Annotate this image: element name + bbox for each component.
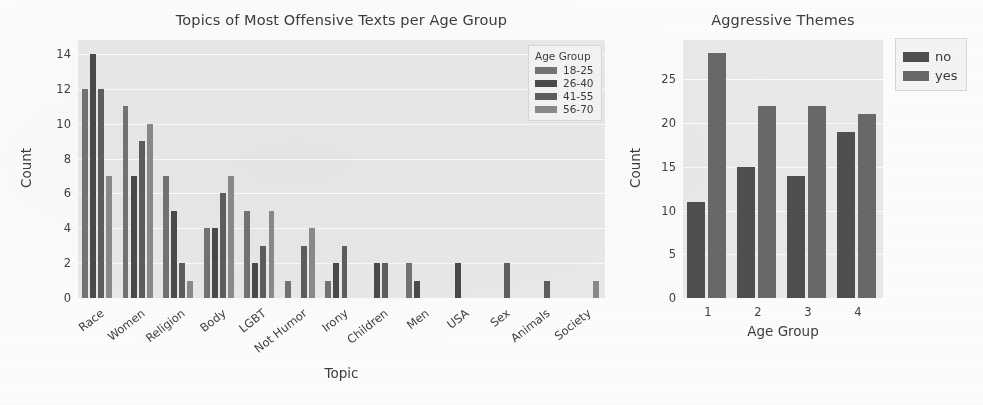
bar [837,132,855,298]
bar [163,176,169,298]
y-axis-tick-label: 2 [64,256,71,270]
chart-aggressive-themes: Aggressive Themes 05101520251234 Count A… [620,0,983,405]
legend-swatch-icon [903,52,929,62]
y-axis-tick-label: 14 [56,47,71,61]
y-axis-tick-label: 20 [661,116,676,130]
bar [787,176,805,298]
bar [406,263,412,298]
bar [123,106,129,298]
x-axis-tick-label: Body [197,306,228,335]
legend-swatch-icon [535,67,557,74]
bar [285,281,291,298]
bar [98,89,104,298]
bar [139,141,145,298]
plot-area-aggressive: 05101520251234 [683,40,883,298]
y-axis-tick-label: 10 [56,117,71,131]
y-axis-tick-label: 15 [661,160,676,174]
legend-swatch-icon [903,71,929,81]
bar [374,263,380,298]
bar [342,246,348,298]
bar [593,281,599,298]
plot-area-topics: 02468101214RaceWomenReligionBodyLGBTNot … [78,40,605,298]
bar [758,106,776,298]
bar [858,114,876,298]
bar [252,263,258,298]
bar [687,202,705,298]
x-axis-tick-label: Children [344,306,390,346]
bar [544,281,550,298]
bar [269,211,275,298]
bar [147,124,153,298]
bar [212,228,218,298]
bar [333,263,339,298]
legend-item: 18-25 [535,64,594,76]
bar [244,211,250,298]
bar [179,263,185,298]
y-axis-tick-label: 8 [64,152,71,166]
gridline [78,54,605,55]
x-axis-label-aggressive: Age Group [683,323,883,339]
x-axis-tick-label: USA [444,306,471,332]
gridline [78,193,605,194]
legend-item-label: 18-25 [563,64,594,76]
x-axis-tick-label: Men [403,306,431,332]
bar [171,211,177,298]
bar [737,167,755,298]
legend-swatch-icon [535,80,557,87]
bar [504,263,510,298]
x-axis-tick-label: 3 [804,305,811,319]
gridline [78,124,605,125]
legend-entries-aggressive: noyes [903,49,957,83]
bar [455,263,461,298]
legend-item: yes [903,68,957,83]
figure-page: Topics of Most Offensive Texts per Age G… [0,0,983,405]
y-axis-tick-label: 4 [64,221,71,235]
x-axis-tick-label: Irony [319,306,350,335]
x-axis-tick-label: 4 [854,305,861,319]
y-axis-tick-label: 6 [64,186,71,200]
bar [228,176,234,298]
bar [301,246,307,298]
legend-item-label: yes [935,68,957,83]
bar [260,246,266,298]
legend-item-label: 41-55 [563,90,594,102]
legend-item: 56-70 [535,103,594,115]
y-axis-tick-label: 10 [661,204,676,218]
y-axis-label-aggressive: Count [627,138,643,198]
x-axis-tick-label: Society [551,306,593,343]
chart-topics-of-most-offensive-texts: Topics of Most Offensive Texts per Age G… [0,0,620,405]
chart-title-topics: Topics of Most Offensive Texts per Age G… [78,12,605,28]
legend-swatch-icon [535,106,557,113]
bar [708,53,726,298]
x-axis-tick-label: 1 [704,305,711,319]
bar [82,89,88,298]
bar [106,176,112,298]
bar [808,106,826,298]
x-axis-tick-label: 2 [754,305,761,319]
gridline [78,89,605,90]
legend-title-age-group: Age Group [535,50,594,62]
chart-title-aggressive-themes: Aggressive Themes [663,12,903,28]
bar [382,263,388,298]
bar [325,281,331,298]
gridline [78,228,605,229]
bar [131,176,137,298]
y-axis-tick-label: 5 [669,247,676,261]
legend-item-label: no [935,49,951,64]
x-axis-tick-label: LGBT [237,306,269,336]
y-axis-label-topics: Count [18,138,34,198]
x-axis-tick-label: Animals [508,306,553,345]
bar [220,193,226,298]
legend-item: 26-40 [535,77,594,89]
bar [204,228,210,298]
legend-item-label: 26-40 [563,77,594,89]
x-axis-tick-label: Religion [143,306,188,345]
bar [309,228,315,298]
y-axis-tick-label: 0 [64,291,71,305]
legend-item-label: 56-70 [563,103,594,115]
bar [90,54,96,298]
bar [187,281,193,298]
x-axis-label-topics: Topic [78,365,605,381]
y-axis-tick-label: 0 [669,291,676,305]
x-axis-tick-label: Women [105,306,148,344]
